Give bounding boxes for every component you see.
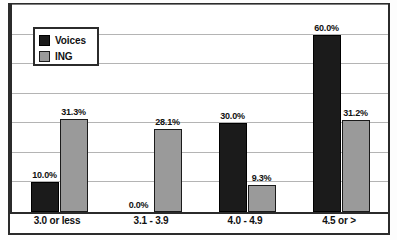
- bar-ing-0: [60, 119, 88, 212]
- category-label-3: 4.5 or >: [292, 215, 386, 226]
- bar-ing-2: [248, 185, 276, 213]
- bar-value-label: 31.3%: [57, 107, 91, 117]
- chart-legend: Voices ING: [33, 27, 99, 66]
- legend-item-voices: Voices: [39, 32, 93, 48]
- bar-voices-0: [31, 182, 59, 212]
- legend-label-voices: Voices: [55, 35, 86, 46]
- bar-value-label: 31.2%: [339, 108, 373, 118]
- bar-value-label: 28.1%: [151, 117, 185, 127]
- bar-voices-3: [313, 35, 341, 212]
- bar-ing-3: [342, 120, 370, 212]
- legend-swatch-voices-icon: [39, 35, 50, 46]
- legend-label-ing: ING: [55, 51, 72, 62]
- bar-chart: 10.0%31.3%0.0%28.1%30.0%9.3%60.0%31.2% 3…: [0, 0, 397, 240]
- bar-voices-2: [219, 123, 247, 212]
- bar-value-label: 60.0%: [310, 23, 344, 33]
- legend-item-ing: ING: [39, 48, 93, 64]
- category-label-1: 3.1 - 3.9: [104, 215, 198, 226]
- legend-swatch-ing-icon: [39, 51, 50, 62]
- bar-value-label: 0.0%: [122, 200, 156, 210]
- bar-value-label: 30.0%: [216, 111, 250, 121]
- bar-ing-1: [154, 129, 182, 212]
- category-axis: 3.0 or less3.1 - 3.94.0 - 4.94.5 or >: [10, 214, 388, 233]
- category-label-2: 4.0 - 4.9: [198, 215, 292, 226]
- bar-value-label: 9.3%: [245, 173, 279, 183]
- bar-value-label: 10.0%: [28, 170, 62, 180]
- category-label-0: 3.0 or less: [10, 215, 104, 226]
